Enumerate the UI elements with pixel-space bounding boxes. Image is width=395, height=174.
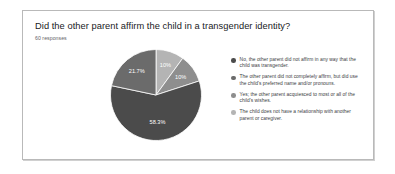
pie-slice-label: 10% bbox=[175, 74, 186, 80]
legend-item[interactable]: The child does not have a relationship w… bbox=[231, 109, 363, 122]
legend-color-swatch-icon bbox=[231, 58, 236, 63]
legend-item[interactable]: Yes; the other parent acquiesced to most… bbox=[231, 92, 363, 105]
chart-legend: No, the other parent did not affirm in a… bbox=[231, 57, 363, 127]
legend-item-label: The child does not have a relationship w… bbox=[240, 109, 363, 122]
pie-slice-label: 58.3% bbox=[150, 119, 166, 125]
legend-item-label: Yes; the other parent acquiesced to most… bbox=[240, 92, 363, 105]
survey-result-card: Did the other parent affirm the child in… bbox=[22, 10, 374, 160]
legend-item-label: No, the other parent did not affirm in a… bbox=[240, 57, 363, 70]
legend-item[interactable]: No, the other parent did not affirm in a… bbox=[231, 57, 363, 70]
chart-area: 10%10%58.3%21.7% No, the other parent di… bbox=[23, 43, 375, 159]
pie-chart-svg: 10%10%58.3%21.7% bbox=[108, 47, 204, 143]
pie-chart: 10%10%58.3%21.7% bbox=[108, 47, 204, 143]
pie-slice-label: 21.7% bbox=[129, 68, 145, 74]
screenshot-root: Did the other parent affirm the child in… bbox=[0, 0, 395, 174]
legend-item[interactable]: The other parent did not completely affi… bbox=[231, 74, 363, 87]
pie-slice-label: 10% bbox=[160, 62, 171, 68]
legend-item-label: The other parent did not completely affi… bbox=[240, 74, 363, 87]
response-count: 60 responses bbox=[35, 35, 67, 41]
legend-color-swatch-icon bbox=[231, 93, 236, 98]
legend-color-swatch-icon bbox=[231, 110, 236, 115]
legend-color-swatch-icon bbox=[231, 76, 236, 81]
pie-slice-group bbox=[110, 50, 201, 141]
page-title: Did the other parent affirm the child in… bbox=[35, 21, 290, 31]
